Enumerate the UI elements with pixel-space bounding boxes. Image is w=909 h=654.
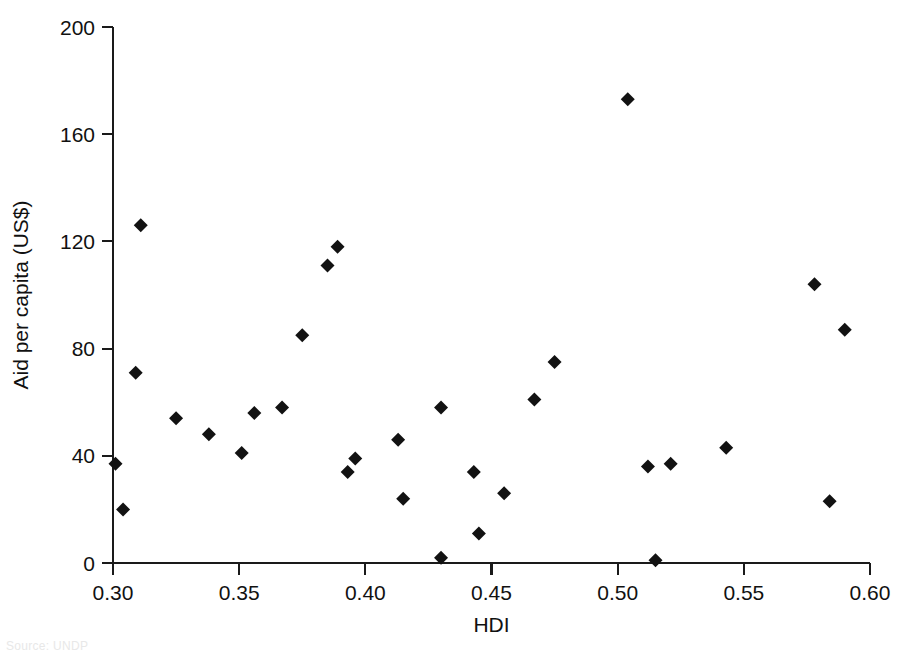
data-point <box>202 427 216 441</box>
data-point <box>664 457 678 471</box>
data-point <box>295 328 309 342</box>
data-point-series <box>109 92 852 567</box>
data-point <box>320 259 334 273</box>
data-point <box>641 460 655 474</box>
data-point <box>472 527 486 541</box>
y-tick-label: 160 <box>60 123 95 146</box>
x-tick-label: 0.60 <box>850 581 891 604</box>
source-note: Source: UNDP <box>6 639 88 653</box>
data-point <box>129 366 143 380</box>
x-tick-label: 0.40 <box>345 581 386 604</box>
data-point <box>391 433 405 447</box>
y-axis-title: Aid per capita (US$) <box>9 200 32 389</box>
x-axis-ticks: 0.300.350.400.450.500.550.60 <box>93 563 891 604</box>
y-tick-label: 0 <box>83 552 95 575</box>
x-tick-label: 0.45 <box>471 581 512 604</box>
data-point <box>331 240 345 254</box>
x-axis-title: HDI <box>473 613 509 636</box>
y-tick-label: 200 <box>60 16 95 39</box>
data-point <box>109 457 123 471</box>
data-point <box>719 441 733 455</box>
data-point <box>467 465 481 479</box>
chart-canvas: 04080120160200 0.300.350.400.450.500.550… <box>0 0 909 654</box>
data-point <box>116 502 130 516</box>
data-point <box>434 401 448 415</box>
x-tick-label: 0.35 <box>219 581 260 604</box>
y-tick-label: 120 <box>60 230 95 253</box>
data-point <box>807 277 821 291</box>
data-point <box>838 323 852 337</box>
data-point <box>235 446 249 460</box>
data-point <box>621 92 635 106</box>
data-point <box>396 492 410 506</box>
data-point <box>649 553 663 567</box>
data-point <box>348 451 362 465</box>
scatter-plot-figure: 04080120160200 0.300.350.400.450.500.550… <box>0 0 909 654</box>
data-point <box>169 411 183 425</box>
data-point <box>341 465 355 479</box>
data-point <box>823 494 837 508</box>
y-axis-ticks: 04080120160200 <box>60 16 113 575</box>
data-point <box>275 401 289 415</box>
y-tick-label: 40 <box>72 444 95 467</box>
data-point <box>134 218 148 232</box>
y-tick-label: 80 <box>72 337 95 360</box>
data-point <box>247 406 261 420</box>
data-point <box>497 486 511 500</box>
data-point <box>527 393 541 407</box>
x-tick-label: 0.55 <box>723 581 764 604</box>
data-point <box>548 355 562 369</box>
x-tick-label: 0.30 <box>93 581 134 604</box>
x-tick-label: 0.50 <box>597 581 638 604</box>
